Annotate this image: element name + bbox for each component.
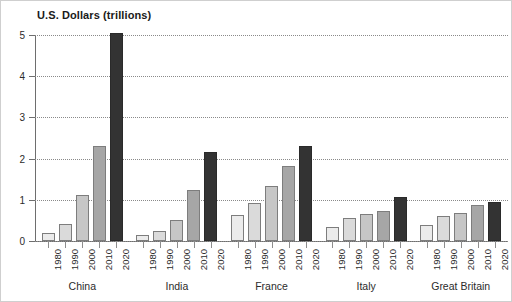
bar[interactable] (204, 152, 217, 241)
x-axis-tick-label: 2020 (120, 249, 131, 270)
group-label: Great Britain (431, 280, 490, 292)
y-axis-tick-label: 4 (1, 71, 25, 82)
x-axis-tick-label: 2000 (181, 249, 192, 270)
y-axis-tick-label: 3 (1, 112, 25, 123)
x-axis-tick-mark (143, 241, 144, 248)
x-axis-tick-label: 2020 (310, 249, 321, 270)
x-axis-tick-mark (289, 241, 290, 248)
bar[interactable] (59, 224, 72, 241)
y-axis-tick-label: 2 (1, 153, 25, 164)
x-axis-tick-mark (255, 241, 256, 248)
y-axis-tick-label: 5 (1, 30, 25, 41)
bar[interactable] (93, 146, 106, 241)
group-label: Italy (356, 280, 375, 292)
x-axis-tick-label: 1990 (353, 249, 364, 270)
bar[interactable] (343, 218, 356, 241)
group-label: India (166, 280, 189, 292)
x-axis-tick-mark (82, 241, 83, 248)
bar[interactable] (170, 220, 183, 241)
bar[interactable] (282, 166, 295, 241)
bar[interactable] (326, 227, 339, 241)
y-axis-tick-mark (29, 35, 35, 36)
y-axis-tick-mark (29, 159, 35, 160)
x-axis-tick-mark (116, 241, 117, 248)
bar[interactable] (437, 216, 450, 241)
bar[interactable] (42, 233, 55, 241)
bar[interactable] (471, 205, 484, 241)
chart-title: U.S. Dollars (trillions) (37, 9, 151, 21)
x-axis-tick-label: 2020 (499, 249, 510, 270)
x-axis-tick-label: 2010 (103, 249, 114, 270)
group-label: France (255, 280, 288, 292)
x-axis-tick-label: 1980 (147, 249, 158, 270)
x-axis-tick-mark (332, 241, 333, 248)
x-axis-tick-mark (99, 241, 100, 248)
group-label: China (69, 280, 96, 292)
bar[interactable] (454, 213, 467, 241)
x-axis-tick-mark (366, 241, 367, 248)
bar[interactable] (248, 203, 261, 241)
x-axis-tick-label: 1990 (259, 249, 270, 270)
x-axis-tick-label: 2020 (404, 249, 415, 270)
x-axis-tick-mark (211, 241, 212, 248)
x-axis-tick-label: 1990 (69, 249, 80, 270)
x-axis-tick-label: 2000 (370, 249, 381, 270)
y-axis-tick-labels: 012345 (1, 1, 25, 302)
x-axis-tick-mark (238, 241, 239, 248)
x-axis-tick-mark (383, 241, 384, 248)
y-axis-tick-label: 1 (1, 194, 25, 205)
y-axis-tick-mark (29, 200, 35, 201)
x-axis-tick-mark (478, 241, 479, 248)
x-axis-tick-label: 2010 (482, 249, 493, 270)
x-axis-tick-mark (400, 241, 401, 248)
x-axis-tick-mark (177, 241, 178, 248)
bar[interactable] (299, 146, 312, 241)
x-axis-tick-mark (160, 241, 161, 248)
bar[interactable] (76, 195, 89, 241)
bar[interactable] (394, 197, 407, 241)
x-axis-tick-label: 2000 (86, 249, 97, 270)
x-axis-tick-label: 1990 (448, 249, 459, 270)
bar[interactable] (110, 33, 123, 241)
x-axis-tick-mark (427, 241, 428, 248)
bar[interactable] (488, 202, 501, 241)
x-axis-tick-mark (461, 241, 462, 248)
bar[interactable] (377, 211, 390, 241)
plot-area (35, 35, 508, 241)
x-axis-tick-label: 1980 (242, 249, 253, 270)
bar[interactable] (420, 225, 433, 241)
bar-group (42, 35, 123, 241)
bar-group (136, 35, 217, 241)
x-axis-tick-mark (444, 241, 445, 248)
x-axis-tick-label: 1980 (431, 249, 442, 270)
bar[interactable] (360, 214, 373, 241)
bar[interactable] (265, 186, 278, 241)
x-axis-tick-mark (306, 241, 307, 248)
x-axis-tick-mark (495, 241, 496, 248)
x-axis-tick-labels: 1980199020002010202019801990200020102020… (35, 249, 508, 279)
bar-group (420, 35, 501, 241)
x-axis-tick-mark (65, 241, 66, 248)
x-axis-tick-marks (35, 241, 508, 249)
bar[interactable] (231, 215, 244, 241)
bar-group (326, 35, 407, 241)
x-axis-tick-label: 2010 (387, 249, 398, 270)
y-axis-tick-label: 0 (1, 236, 25, 247)
y-axis-tick-mark (29, 76, 35, 77)
bar[interactable] (153, 231, 166, 241)
x-axis-tick-mark (272, 241, 273, 248)
x-axis-tick-label: 1980 (52, 249, 63, 270)
y-axis-tick-mark (29, 241, 35, 242)
group-labels: ChinaIndiaFranceItalyGreat Britain (35, 280, 508, 296)
x-axis-tick-label: 2000 (465, 249, 476, 270)
chart-figure: U.S. Dollars (trillions) 012345 19801990… (0, 0, 512, 302)
bar[interactable] (187, 190, 200, 242)
x-axis-tick-mark (349, 241, 350, 248)
y-axis-tick-mark (29, 117, 35, 118)
x-axis-tick-mark (48, 241, 49, 248)
bar-group (231, 35, 312, 241)
x-axis-tick-label: 2000 (276, 249, 287, 270)
x-axis-tick-label: 1980 (336, 249, 347, 270)
x-axis-tick-label: 1990 (164, 249, 175, 270)
x-axis-tick-label: 2020 (215, 249, 226, 270)
